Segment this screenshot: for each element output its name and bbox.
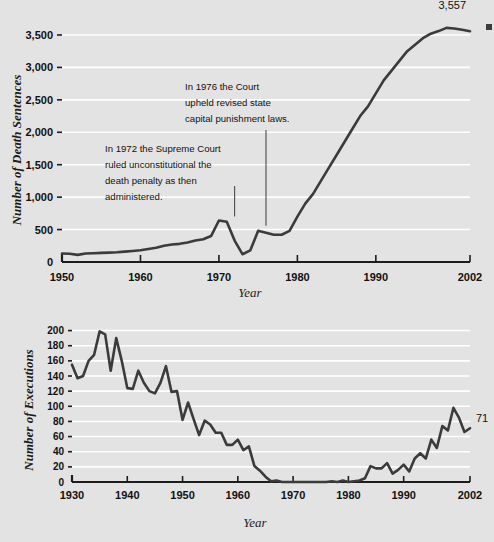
xtick-label-0: 1930 [60, 489, 84, 501]
annot-1976-line-2: capital punishment laws. [185, 113, 290, 124]
ytick-label-6: 3,000 [25, 61, 53, 73]
top-chart-x-axis-title: Year [238, 285, 262, 300]
ytick-label-2: 1,000 [25, 191, 53, 203]
xtick-label-1: 1960 [128, 271, 152, 283]
annot-1976-line-0: In 1976 the Court [185, 81, 259, 92]
xtick-label-1: 1940 [115, 489, 139, 501]
ytick-label-7: 140 [47, 371, 64, 382]
annot-1976-line-1: upheld revised state [185, 97, 271, 108]
xtick-label-7: 2002 [458, 489, 482, 501]
xtick-label-4: 1990 [364, 271, 388, 283]
ytick-label-1: 500 [35, 224, 53, 236]
ytick-label-9: 180 [47, 340, 64, 351]
ytick-label-0: 0 [58, 477, 64, 488]
ytick-label-4: 2,000 [25, 126, 53, 138]
crop-mark-icon [486, 24, 492, 30]
xtick-label-4: 1970 [281, 489, 305, 501]
top-chart-end-value-label: 3,557 [438, 0, 466, 11]
xtick-label-5: 2002 [458, 271, 482, 283]
ytick-label-5: 2,500 [25, 94, 53, 106]
annot-1972-line-0: In 1972 the Supreme Court [105, 143, 221, 154]
annot-1972-line-2: death penalty as then [105, 175, 197, 186]
bottom-chart-end-value-label: 71 [476, 412, 488, 424]
ytick-label-10: 200 [47, 325, 64, 336]
ytick-label-4: 80 [53, 416, 65, 427]
ytick-label-3: 60 [53, 431, 65, 442]
xtick-label-6: 1990 [391, 489, 415, 501]
bottom-chart-x-axis-title: Year [243, 515, 267, 530]
ytick-label-8: 160 [47, 355, 64, 366]
ytick-label-5: 100 [47, 401, 64, 412]
annot-1972-line-1: ruled unconstitutional the [105, 159, 212, 170]
bottom-chart-background [0, 305, 494, 542]
ytick-label-3: 1,500 [25, 159, 53, 171]
xtick-label-3: 1960 [226, 489, 250, 501]
chart-executions: 020406080100120140160180200 193019401950… [0, 305, 494, 542]
xtick-label-2: 1970 [207, 271, 231, 283]
top-chart-background [0, 0, 494, 305]
chart-death-sentences: 05001,0001,5002,0002,5003,0003,500 19501… [0, 0, 494, 305]
top-chart-y-axis-title: Number of Death Sentences [9, 75, 24, 227]
ytick-label-0: 0 [47, 256, 53, 268]
xtick-label-3: 1980 [285, 271, 309, 283]
xtick-label-0: 1950 [50, 271, 74, 283]
ytick-label-2: 40 [53, 446, 65, 457]
bottom-chart-y-axis-title: Number of Executions [21, 349, 36, 471]
ytick-label-6: 120 [47, 386, 64, 397]
ytick-label-1: 20 [53, 461, 65, 472]
figure-container: 05001,0001,5002,0002,5003,0003,500 19501… [0, 0, 494, 542]
xtick-label-5: 1980 [336, 489, 360, 501]
annot-1972-line-3: administered. [105, 191, 163, 202]
xtick-label-2: 1950 [170, 489, 194, 501]
ytick-label-7: 3,500 [25, 29, 53, 41]
